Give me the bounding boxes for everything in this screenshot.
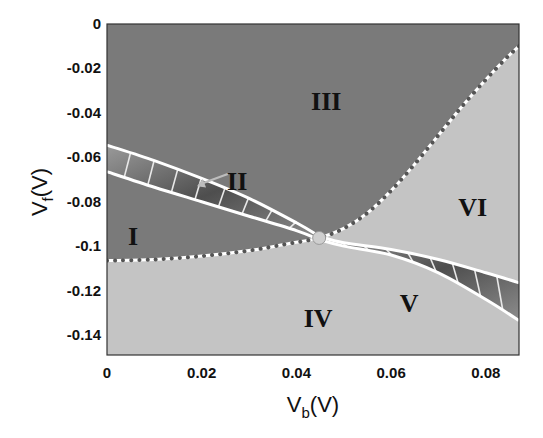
y-axis-label: Vf(V): [27, 168, 56, 216]
x-tick-label: 0.08: [471, 364, 500, 381]
y-tick-label: 0: [93, 15, 101, 32]
x-axis-label: Vb(V): [287, 392, 339, 421]
y-axis-ticks: 0-0.02-0.04-0.06-0.08-0.1-0.12-0.14: [67, 15, 102, 343]
y-tick-label: -0.08: [67, 193, 101, 210]
x-tick-label: 0.04: [282, 364, 312, 381]
region-label-ii: II: [227, 167, 247, 196]
crossing-point: [313, 231, 326, 244]
y-tick-label: -0.12: [67, 282, 101, 299]
region-label-v: V: [400, 289, 419, 318]
y-tick-label: -0.04: [67, 104, 102, 121]
phase-diagram: 00.020.040.060.08 0-0.02-0.04-0.06-0.08-…: [0, 0, 543, 438]
region-label-iii: III: [311, 87, 341, 116]
x-tick-label: 0: [103, 364, 111, 381]
y-tick-label: -0.14: [67, 326, 102, 343]
region-label-iv: IV: [304, 304, 333, 333]
region-label-vi: VI: [458, 193, 487, 222]
x-tick-label: 0.06: [377, 364, 406, 381]
y-tick-label: -0.1: [75, 237, 101, 254]
x-tick-label: 0.02: [187, 364, 216, 381]
y-tick-label: -0.06: [67, 148, 101, 165]
y-tick-label: -0.02: [67, 59, 101, 76]
x-axis-ticks: 00.020.040.060.08: [103, 364, 501, 381]
region-label-i: I: [128, 222, 138, 251]
